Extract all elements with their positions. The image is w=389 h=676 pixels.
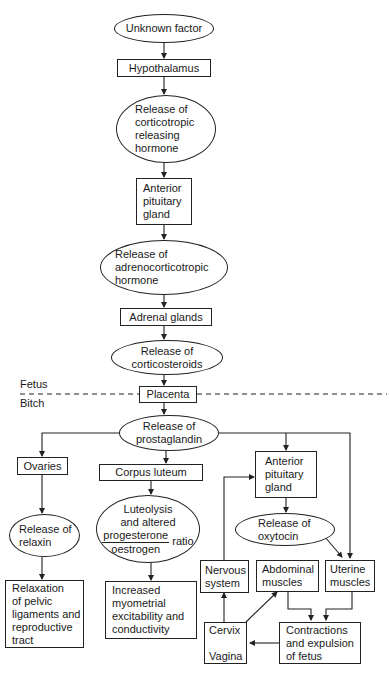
node-myometrial-excitability: Increased myometrial excitability and co…: [105, 581, 197, 639]
node-abdominal-muscles: Abdominal muscles: [256, 560, 319, 592]
node-uterine-muscles: Uterine muscles: [325, 560, 375, 592]
node-adrenal-glands: Adrenal glands: [120, 308, 212, 326]
node-corticosteroids-release: Release of corticosteroids: [111, 340, 223, 375]
node-crh-release: Release of corticotropic releasing hormo…: [116, 95, 216, 163]
node-anterior-pituitary-fetal: Anterior pituitary gland: [136, 178, 192, 225]
node-nervous-system: Nervous system: [200, 560, 249, 593]
node-cervix-vagina: Cervix Vagina: [204, 622, 247, 664]
node-prostaglandin-release: Release of prostaglandin: [119, 415, 219, 451]
bitch-region-label: Bitch: [20, 397, 44, 410]
fetus-region-label: Fetus: [20, 378, 48, 391]
node-hypothalamus: Hypothalamus: [117, 59, 211, 77]
node-anterior-pituitary-maternal: Anterior pituitary gland: [255, 451, 317, 498]
node-oxytocin-release: Release of oxytocin: [235, 513, 335, 546]
node-unknown-factor: Unknown factor: [114, 14, 214, 43]
node-relaxation: Relaxation of pelvic ligaments and repro…: [5, 580, 84, 648]
node-acth-release: Release of adrenocorticotropic hormone: [100, 240, 228, 295]
progesterone-oestrogen-ratio: progesteroneoestrogen ratio: [102, 529, 193, 556]
luteolysis-text: Luteolysis and altered progesteroneoestr…: [102, 503, 193, 556]
node-contractions-expulsion: Contractions and expulsion of fetus: [279, 622, 361, 664]
node-corpus-luteum: Corpus luteum: [99, 464, 203, 481]
node-relaxin-release: Release of relaxin: [9, 514, 80, 557]
node-luteolysis: Luteolysis and altered progesteroneoestr…: [96, 495, 200, 563]
node-placenta: Placenta: [139, 386, 197, 403]
node-ovaries: Ovaries: [17, 457, 68, 475]
